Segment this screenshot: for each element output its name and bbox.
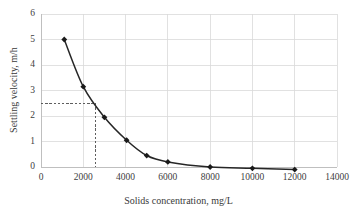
data-point-marker xyxy=(207,164,213,170)
settling-velocity-chart: 0123456 02000400060008000100001200014000… xyxy=(0,0,357,215)
data-point-marker xyxy=(61,37,67,43)
series-markers xyxy=(61,37,297,173)
data-point-marker xyxy=(80,84,86,90)
plot-canvas xyxy=(0,0,357,215)
x-axis-title: Solids concentration, mg/L xyxy=(0,196,357,206)
data-point-marker xyxy=(250,165,256,171)
x-tick-label-14000: 14000 xyxy=(312,173,357,183)
y-axis-title: Settling velocity, m/h xyxy=(9,10,19,170)
annotation-guide-lines xyxy=(41,103,96,167)
data-point-marker xyxy=(144,153,150,159)
settling-velocity-curve xyxy=(64,40,294,170)
series-line xyxy=(64,40,294,170)
data-point-marker xyxy=(165,159,171,165)
